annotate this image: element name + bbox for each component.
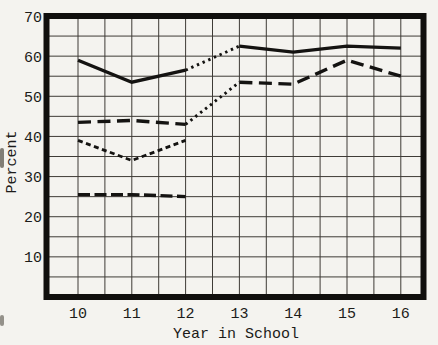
y-tick-label: 30 (24, 170, 42, 187)
y-tick-label: 10 (24, 250, 42, 267)
y-tick-label: 20 (24, 210, 42, 227)
grid-layer (47, 16, 424, 297)
x-axis-label: Year in School (173, 326, 299, 343)
y-axis-label: Percent (4, 130, 21, 193)
chart-figure: 1011121314151670605040302010 Year in Sch… (0, 0, 438, 345)
x-tick-label: 14 (284, 306, 302, 323)
scan-artifact (0, 148, 4, 168)
x-tick-label: 15 (338, 306, 356, 323)
y-tick-label: 70 (24, 10, 42, 27)
x-tick-label: 10 (69, 306, 87, 323)
y-tick-label: 50 (24, 90, 42, 107)
y-tick-label: 60 (24, 50, 42, 67)
y-tick-label: 40 (24, 130, 42, 147)
scan-artifact (0, 315, 4, 326)
x-tick-label: 16 (392, 306, 410, 323)
line-chart: 1011121314151670605040302010 Year in Sch… (0, 0, 438, 345)
x-tick-label: 12 (177, 306, 195, 323)
x-tick-label: 11 (123, 306, 141, 323)
x-tick-label: 13 (230, 306, 248, 323)
